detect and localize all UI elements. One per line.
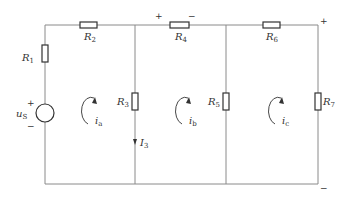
r4-minus: − (188, 11, 196, 21)
label-r2: R2 (83, 31, 96, 44)
circuit-svg: R1 R2 R3 R4 R5 R6 R7 uS + − + − + − ia i… (0, 0, 344, 198)
label-r3: R3 (116, 96, 129, 109)
label-r5: R5 (207, 96, 220, 109)
resistor-r2 (80, 22, 97, 28)
resistor-r6 (263, 22, 280, 28)
source-minus: − (27, 121, 35, 131)
current-arrow-icon (133, 139, 137, 145)
label-us: uS (16, 108, 27, 121)
output-plus: + (320, 16, 328, 26)
label-ia: ia (95, 115, 102, 128)
voltage-source-icon (36, 104, 54, 122)
label-r6: R6 (265, 31, 279, 44)
output-minus: − (320, 183, 328, 193)
label-r7: R7 (322, 96, 335, 109)
resistor-r4 (170, 22, 189, 28)
resistor-r7 (315, 93, 321, 110)
label-ic: ic (282, 115, 289, 128)
label-r1: R1 (21, 52, 34, 65)
r4-plus: + (155, 11, 163, 21)
resistor-r5 (223, 93, 229, 110)
label-ib: ib (189, 115, 197, 128)
label-i3: I3 (139, 137, 148, 150)
source-plus: + (27, 98, 35, 108)
label-r4: R4 (174, 31, 188, 44)
resistor-r3 (132, 93, 138, 110)
wires (45, 25, 318, 184)
circuit-diagram: R1 R2 R3 R4 R5 R6 R7 uS + − + − + − ia i… (0, 0, 344, 198)
resistor-r1 (42, 45, 48, 62)
